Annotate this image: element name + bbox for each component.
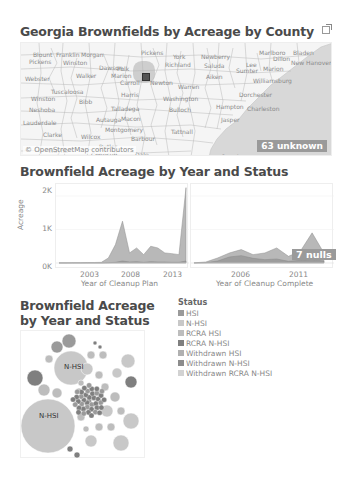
- county-label: Sumter: [236, 67, 258, 74]
- county-label: Carroll: [120, 79, 140, 86]
- county-label: Blount: [33, 51, 52, 58]
- county-label: Newberry: [201, 53, 230, 60]
- legend-label: RCRA HSI: [186, 329, 221, 338]
- area-plot-left: [56, 184, 189, 269]
- county-label: Dillon: [273, 55, 290, 62]
- y-axis-label: Acreage: [16, 199, 25, 230]
- map-title: Georgia Brownfields by Acreage by County: [20, 24, 314, 39]
- legend-label: RCRA N-HSI: [186, 339, 229, 348]
- county-label: Macon: [121, 115, 141, 122]
- legend-swatch: [178, 320, 184, 326]
- county-label: Lauderdale: [23, 119, 57, 126]
- popout-icon[interactable]: [322, 26, 330, 34]
- legend-label: Withdrawn HSI: [186, 349, 241, 358]
- legend-swatch: [178, 330, 184, 336]
- county-label: Marion: [111, 72, 131, 79]
- county-label: Montgomery: [105, 126, 143, 133]
- county-label: Dale: [135, 151, 149, 156]
- county-label: Franklin: [56, 51, 80, 58]
- county-label: Bibb: [79, 98, 92, 105]
- county-label: Clarke: [43, 131, 62, 138]
- x-axis-label-plan: Year of Cleanup Plan: [81, 279, 158, 288]
- county-label: Dorchester: [239, 91, 272, 98]
- county-label: York: [173, 53, 185, 60]
- y-tick-1k: 1K: [36, 224, 52, 233]
- county-label: Marion: [263, 65, 283, 72]
- county-label: Bladen: [293, 49, 314, 56]
- county-label: Morgan: [81, 51, 104, 58]
- county-label: Neshoba: [29, 106, 55, 113]
- county-label: Warren: [178, 83, 199, 90]
- county-label: Talladega: [111, 105, 139, 112]
- county-label: Jasper: [221, 116, 240, 123]
- legend-label: HSI: [186, 309, 199, 318]
- county-label: Newton: [150, 79, 173, 86]
- legend-item[interactable]: RCRA N-HSI: [178, 338, 272, 348]
- x-tick-2013: 2013: [163, 270, 182, 279]
- county-label: Wilcox: [81, 133, 100, 140]
- x-tick-2003: 2003: [80, 270, 99, 279]
- x-tick-2008: 2008: [121, 270, 140, 279]
- area-series: [59, 188, 186, 263]
- county-label: Walker: [76, 72, 96, 79]
- county-label: Pickens: [29, 58, 51, 65]
- county-label: Winston: [31, 95, 55, 102]
- county-label: Camden: [221, 153, 246, 156]
- legend-title: Status: [178, 298, 272, 307]
- county-label: Tuscaloosa: [51, 88, 83, 95]
- county-label: Williamsburg: [253, 77, 292, 84]
- county-label: Tattnall: [171, 128, 193, 135]
- county-label: Hampton: [216, 103, 244, 110]
- legend-swatch: [178, 370, 184, 376]
- legend-item[interactable]: N-HSI: [178, 318, 272, 328]
- county-label: Harris: [121, 91, 139, 98]
- county-marker[interactable]: [142, 73, 150, 81]
- cleanup-plan-area-chart[interactable]: [55, 183, 188, 268]
- county-map[interactable]: BlountFranklinMorganPickensYorkNewberryM…: [20, 42, 332, 156]
- bubble-label-nhsi-medium: N-HSI: [64, 363, 84, 371]
- county-label: Saluda: [204, 62, 224, 69]
- county-label: Charleston: [247, 105, 279, 112]
- county-label: Webster: [25, 75, 50, 82]
- bubble-chart-title: Brownfield Acreage by Year and Status: [20, 298, 155, 328]
- bubble-plot: [21, 331, 146, 459]
- x-tick-2011: 2011: [289, 270, 308, 279]
- legend-item[interactable]: Withdrawn RCRA N-HSI: [178, 368, 272, 378]
- legend-label: N-HSI: [186, 319, 207, 328]
- bubble-label-nhsi-large: N-HSI: [39, 412, 59, 420]
- county-label: Polk: [117, 65, 129, 72]
- map-attribution[interactable]: © OpenStreetMap contributors: [23, 146, 136, 154]
- nulls-badge[interactable]: 7 nulls: [292, 249, 336, 260]
- bubble-title-line-1: Brownfield Acreage: [20, 298, 155, 313]
- area-chart-title: Brownfield Acreage by Year and Status: [20, 164, 288, 179]
- legend-swatch: [178, 350, 184, 356]
- legend-swatch: [178, 310, 184, 316]
- county-label: New Hanover: [291, 59, 331, 66]
- status-legend: Status HSIN-HSIRCRA HSIRCRA N-HSIWithdra…: [178, 298, 272, 378]
- bubble-title-line-2: by Year and Status: [20, 313, 155, 328]
- legend-item[interactable]: Withdrawn N-HSI: [178, 358, 272, 368]
- county-label: Winston: [63, 59, 87, 66]
- county-label: Autauga: [96, 116, 121, 123]
- legend-swatch: [178, 360, 184, 366]
- county-label: Richland: [165, 61, 191, 68]
- x-axis-label-complete: Year of Cleanup Complete: [216, 279, 313, 288]
- county-label: Aiken: [206, 73, 223, 80]
- legend-label: Withdrawn N-HSI: [186, 359, 250, 368]
- bubble-chart[interactable]: N-HSI N-HSI: [20, 330, 145, 458]
- legend-swatch: [178, 340, 184, 346]
- y-tick-2k: 2K: [36, 186, 52, 195]
- county-label: Washington: [163, 95, 198, 102]
- county-label: Barbour: [131, 135, 155, 142]
- x-tick-2006: 2006: [231, 270, 250, 279]
- legend-item[interactable]: RCRA HSI: [178, 328, 272, 338]
- y-tick-0k: 0K: [36, 262, 52, 271]
- legend-item[interactable]: Withdrawn HSI: [178, 348, 272, 358]
- county-label: Pickens: [141, 49, 163, 56]
- county-label: Bulloch: [169, 106, 191, 113]
- legend-label: Withdrawn RCRA N-HSI: [186, 369, 272, 378]
- legend-item[interactable]: HSI: [178, 308, 272, 318]
- unknown-count-badge[interactable]: 63 unknown: [257, 140, 327, 152]
